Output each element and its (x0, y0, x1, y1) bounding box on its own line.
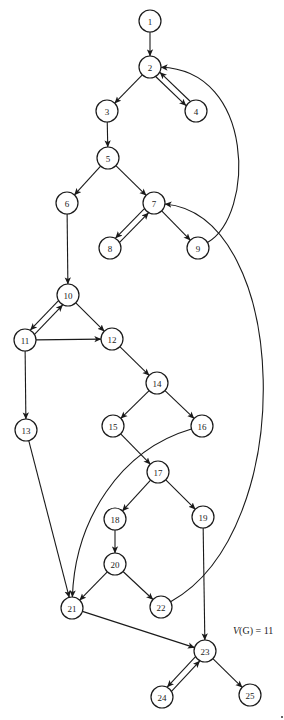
node-22: 22 (150, 596, 172, 618)
node-label: 23 (201, 647, 211, 657)
edge-7-to-9 (162, 211, 191, 240)
edge-11-to-12 (36, 339, 101, 340)
node-18: 18 (104, 508, 126, 530)
node-label: 15 (109, 422, 119, 432)
node-label: 14 (153, 379, 163, 389)
node-25: 25 (239, 684, 261, 706)
node-label: 10 (64, 291, 74, 301)
cyclomatic-complexity-label: V(G) = 11 (233, 625, 273, 636)
edge-20-to-21 (80, 572, 108, 600)
node-label: 17 (154, 468, 164, 478)
node-label: 6 (65, 199, 70, 209)
node-24: 24 (151, 686, 173, 708)
node-1: 1 (139, 10, 161, 32)
node-label: 19 (199, 513, 209, 523)
edge-5-to-6 (74, 166, 100, 195)
node-9: 9 (187, 237, 209, 259)
node-label: 16 (198, 422, 208, 432)
node-10: 10 (57, 284, 79, 306)
node-6: 6 (56, 192, 78, 214)
node-label: 24 (158, 693, 168, 703)
scan-speck (281, 716, 283, 718)
edge-4-to-2 (160, 72, 190, 101)
edge-3-to-5 (107, 122, 108, 147)
node-16: 16 (191, 415, 213, 437)
node-5: 5 (97, 147, 119, 169)
control-flow-graph: 1234567891011121314151617181920212223242… (0, 0, 284, 720)
node-label: 2 (148, 63, 153, 73)
edge-7-to-8 (116, 209, 145, 238)
edge-12-to-14 (120, 347, 149, 376)
node-label: 8 (108, 244, 113, 254)
edge-20-to-22 (123, 572, 153, 600)
edge-13-to-21 (29, 441, 69, 598)
edge-10-to-11 (30, 301, 58, 330)
complexity-expression: (G) = 11 (239, 625, 273, 636)
edge-24-to-23 (172, 661, 200, 691)
edge-14-to-15 (121, 391, 149, 419)
node-label: 7 (152, 199, 157, 209)
node-7: 7 (143, 192, 165, 214)
node-20: 20 (104, 553, 126, 575)
node-label: 1 (148, 17, 153, 27)
node-label: 22 (157, 603, 166, 613)
edge-14-to-16 (165, 391, 194, 419)
node-label: 12 (108, 335, 117, 345)
node-14: 14 (146, 372, 168, 394)
node-12: 12 (101, 328, 123, 350)
edge-8-to-7 (120, 213, 149, 242)
edge-17-to-19 (166, 480, 195, 509)
node-label: 11 (21, 336, 30, 346)
edge-21-to-23 (82, 611, 194, 647)
node-label: 21 (68, 604, 77, 614)
node-label: 5 (106, 154, 111, 164)
edge-2-to-3 (115, 75, 143, 103)
node-label: 13 (22, 426, 32, 436)
node-label: 18 (111, 515, 121, 525)
edge-19-to-23 (203, 528, 205, 640)
edge-17-to-18 (122, 480, 150, 511)
node-label: 20 (111, 560, 121, 570)
node-11: 11 (14, 329, 36, 351)
node-label: 9 (196, 244, 201, 254)
node-label: 3 (105, 107, 110, 117)
node-13: 13 (15, 419, 37, 441)
node-4: 4 (185, 100, 207, 122)
node-2: 2 (139, 56, 161, 78)
edges-layer (25, 32, 263, 691)
node-label: 4 (194, 107, 199, 117)
edge-2-to-4 (156, 77, 186, 106)
node-17: 17 (147, 461, 169, 483)
nodes-layer: 1234567891011121314151617181920212223242… (14, 10, 261, 708)
edge-23-to-25 (213, 659, 242, 688)
node-8: 8 (99, 237, 121, 259)
node-23: 23 (194, 640, 216, 662)
edge-11-to-13 (25, 351, 26, 419)
node-19: 19 (192, 506, 214, 528)
edge-16-to-21 (72, 429, 191, 597)
edge-11-to-10 (35, 305, 63, 334)
edge-5-to-7 (116, 166, 146, 196)
edge-6-to-10 (67, 214, 68, 284)
edge-23-to-24 (167, 657, 195, 687)
node-15: 15 (102, 415, 124, 437)
edge-10-to-12 (76, 303, 104, 331)
node-label: 25 (246, 691, 256, 701)
node-21: 21 (61, 597, 83, 619)
edge-22-to-7 (165, 204, 263, 602)
node-3: 3 (96, 100, 118, 122)
